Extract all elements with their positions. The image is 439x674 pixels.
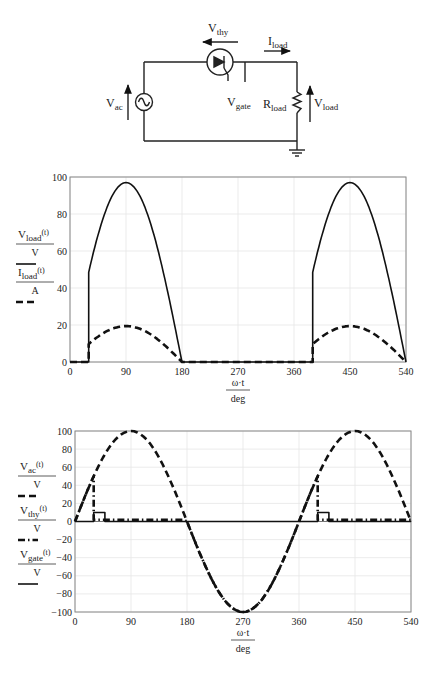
y-tick-label: −60 — [56, 570, 72, 581]
x-tick-label: 270 — [231, 366, 246, 377]
circuit-labels: Vac Vthy Vgate Iload Rload Vload — [106, 21, 339, 113]
x-tick-label: 180 — [175, 366, 190, 377]
legend-item: Vgate(t)V — [18, 548, 56, 584]
circuit-diagram — [128, 42, 310, 156]
tick-labels: 090180270360450540020406080100 — [52, 172, 414, 378]
y-tick-label: 60 — [62, 462, 72, 473]
source-thyristor-gate-voltage-chart: 090180270360450540−100−80−60−40−20020406… — [18, 426, 419, 655]
sine-wave-icon — [139, 98, 150, 106]
svg-text:A: A — [31, 285, 39, 296]
load-voltage-current-chart: 090180270360450540020406080100ω·tdegVloa… — [16, 172, 414, 405]
x-axis-label: ω·tdeg — [231, 627, 255, 654]
y-tick-label: 80 — [57, 209, 67, 220]
x-tick-label: 360 — [287, 366, 302, 377]
svg-text:deg: deg — [236, 643, 250, 654]
svg-text:Vac(t): Vac(t) — [20, 460, 44, 475]
thyristor-diode-icon — [214, 57, 224, 67]
svg-text:Vgate(t): Vgate(t) — [20, 548, 51, 563]
legend-item: Vthy(t)V — [18, 504, 56, 540]
svg-text:Iload(t): Iload(t) — [18, 266, 45, 281]
y-tick-label: 60 — [57, 246, 67, 257]
rload-label: Rload — [263, 97, 287, 113]
vload-label: Vload — [314, 96, 339, 112]
vgate-label: Vgate — [227, 95, 251, 111]
y-tick-label: −40 — [56, 552, 72, 563]
x-tick-label: 540 — [399, 366, 414, 377]
x-tick-label: 450 — [343, 366, 358, 377]
x-tick-label: 180 — [180, 616, 195, 627]
y-tick-label: 100 — [52, 172, 67, 183]
y-tick-label: 80 — [62, 444, 72, 455]
y-tick-label: 0 — [62, 357, 67, 368]
svg-text:V: V — [33, 523, 41, 534]
legend-item: Vac(t)V — [18, 460, 56, 496]
x-tick-label: 90 — [126, 616, 136, 627]
svg-text:ω·t: ω·t — [237, 627, 250, 638]
vac-label: Vac — [106, 96, 123, 112]
tick-labels: 090180270360450540−100−80−60−40−20020406… — [51, 426, 418, 628]
x-tick-label: 540 — [404, 616, 419, 627]
y-tick-label: −20 — [56, 534, 72, 545]
ground-icon — [289, 150, 305, 156]
y-tick-label: 100 — [57, 426, 72, 437]
svg-text:ω·t: ω·t — [232, 377, 245, 388]
y-tick-label: −80 — [56, 588, 72, 599]
x-tick-label: 270 — [236, 616, 251, 627]
vthy-label: Vthy — [208, 21, 229, 37]
legend: Vload(t)VIload(t)A — [16, 228, 54, 302]
legend-item: Vload(t)V — [16, 228, 54, 264]
y-tick-label: 40 — [62, 480, 72, 491]
svg-text:Vthy(t): Vthy(t) — [20, 504, 47, 519]
grid-lines — [70, 177, 406, 362]
svg-text:V: V — [33, 567, 41, 578]
y-tick-label: 0 — [67, 516, 72, 527]
legend-item: Iload(t)A — [16, 266, 54, 302]
x-tick-label: 90 — [121, 366, 131, 377]
x-tick-label: 450 — [348, 616, 363, 627]
legend: Vac(t)VVthy(t)VVgate(t)V — [18, 460, 56, 584]
x-tick-label: 360 — [292, 616, 307, 627]
svg-text:deg: deg — [231, 393, 245, 404]
figure: Vac Vthy Vgate Iload Rload Vload 0901802… — [0, 0, 439, 674]
svg-text:V: V — [33, 479, 41, 490]
svg-text:V: V — [31, 247, 39, 258]
svg-text:Vload(t): Vload(t) — [18, 228, 49, 243]
iload-label: Iload — [268, 34, 288, 50]
y-tick-label: 40 — [57, 283, 67, 294]
x-axis-label: ω·tdeg — [226, 377, 250, 404]
y-tick-label: −100 — [51, 607, 72, 618]
y-tick-label: 20 — [62, 498, 72, 509]
x-tick-label: 0 — [73, 616, 78, 627]
x-tick-label: 0 — [68, 366, 73, 377]
resistor-icon — [293, 92, 301, 113]
y-tick-label: 20 — [57, 320, 67, 331]
